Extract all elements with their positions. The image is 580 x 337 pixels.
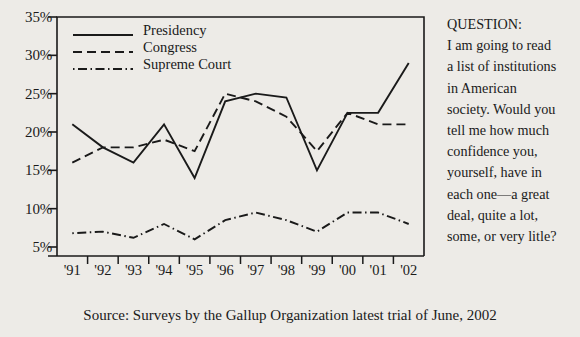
y-axis-ticks [48,17,57,247]
x-tick-label: '97 [247,262,264,279]
question-line: in American [447,78,580,99]
x-tick-label: '96 [217,262,234,279]
question-line: each one—a great [447,184,580,205]
x-tick-label: '95 [186,262,203,279]
x-axis-tick-labels: '91'92'93'94'95'96'97'98'99'00'01'02 [0,262,432,288]
x-tick-label: '00 [339,262,356,279]
series-line [72,63,408,178]
chart-legend: PresidencyCongressSupreme Court [72,22,252,73]
x-tick-label: '91 [64,262,81,279]
x-tick-label: '93 [125,262,142,279]
x-tick-label: '98 [278,262,295,279]
question-line: deal, quite a lot, [447,205,580,226]
x-tick-label: '99 [308,262,325,279]
source-caption: Source: Surveys by the Gallup Organizati… [0,307,580,324]
x-tick-label: '01 [370,262,387,279]
question-heading: QUESTION: [447,14,580,35]
legend-label: Presidency [143,23,207,38]
chart-plot-area: 5%10%15%20%25%30%35% '91'92'93'94'95'96'… [0,0,432,300]
question-line: a list of institutions [447,56,580,77]
legend-line-swatch [72,60,134,70]
legend-item: Supreme Court [72,56,252,73]
question-block: QUESTION: I am going to reada list of in… [447,14,580,247]
x-tick-label: '94 [155,262,172,279]
legend-item: Presidency [72,22,252,39]
legend-label: Supreme Court [143,57,231,72]
question-line: tell me how much [447,120,580,141]
question-line: some, or very litle? [447,226,580,247]
series-line [72,213,408,240]
question-line: I am going to read [447,35,580,56]
legend-label: Congress [143,40,197,55]
legend-line-swatch [72,43,134,53]
data-series-group [72,63,408,239]
question-line: yourself, have in [447,162,580,183]
legend-line-swatch [72,26,134,36]
question-line: confidence you, [447,141,580,162]
figure-container: 5%10%15%20%25%30%35% '91'92'93'94'95'96'… [0,0,580,337]
legend-item: Congress [72,39,252,56]
x-tick-label: '02 [400,262,417,279]
x-tick-label: '92 [94,262,111,279]
series-line [72,94,408,163]
question-line: society. Would you [447,99,580,120]
